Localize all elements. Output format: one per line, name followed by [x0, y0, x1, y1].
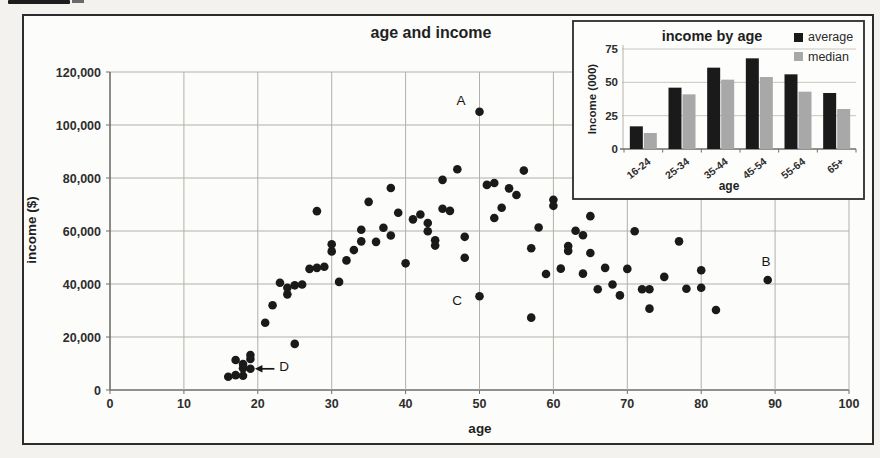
inset-y-tick-label: 50 — [605, 76, 618, 88]
point-label-B: B — [761, 254, 770, 269]
scatter-point — [423, 219, 432, 228]
scatter-point — [497, 203, 506, 212]
scatter-point — [593, 285, 602, 294]
scatter-point — [697, 283, 706, 292]
main-x-tick-label: 80 — [694, 397, 708, 411]
bar-median — [683, 94, 696, 149]
bar-average — [707, 68, 720, 149]
bar-average — [630, 126, 643, 149]
scatter-point — [401, 259, 410, 268]
scatter-point — [460, 253, 469, 262]
main-y-tick-label: 80,000 — [63, 172, 101, 186]
scatter-point — [372, 238, 381, 247]
legend-label-average: average — [808, 31, 853, 44]
bar-median — [721, 80, 734, 149]
scatter-point — [387, 184, 396, 193]
scanned-figure-page: 0102030405060708090100020,00040,00060,00… — [0, 0, 880, 458]
legend-label-median: median — [808, 51, 849, 64]
bar-median — [760, 77, 773, 149]
scatter-point — [313, 264, 322, 273]
point-label-A: A — [456, 93, 465, 108]
main-x-tick-label: 50 — [473, 397, 487, 411]
scatter-point — [660, 273, 669, 282]
bar-median — [644, 133, 657, 149]
scatter-point — [423, 227, 432, 236]
scatter-point — [320, 262, 329, 271]
main-y-tick-label: 20,000 — [63, 331, 101, 345]
scatter-point — [446, 207, 455, 216]
main-x-tick-label: 70 — [620, 397, 634, 411]
scatter-point — [623, 265, 632, 274]
scatter-point — [527, 313, 536, 322]
bar-average — [669, 88, 682, 149]
main-x-tick-label: 60 — [546, 397, 560, 411]
scatter-point — [239, 360, 248, 369]
main-x-tick-label: 100 — [839, 397, 860, 411]
scatter-point — [697, 266, 706, 275]
main-x-tick-label: 0 — [107, 397, 114, 411]
scatter-point — [313, 207, 322, 216]
scatter-point — [231, 356, 240, 365]
main-y-tick-label: 0 — [94, 384, 101, 398]
bar-average — [746, 58, 759, 149]
scatter-point — [438, 204, 447, 213]
main-y-axis-title: income ($) — [24, 196, 39, 264]
scatter-point — [379, 224, 388, 233]
scatter-point — [475, 107, 484, 116]
scatter-point — [246, 355, 255, 364]
inset-legend: average median — [794, 31, 853, 63]
scatter-point — [364, 198, 373, 207]
main-x-tick-label: 20 — [251, 397, 265, 411]
scatter-point — [527, 244, 536, 253]
scatter-point — [246, 365, 255, 374]
scatter-point — [675, 237, 684, 246]
main-y-tick-label: 40,000 — [63, 278, 101, 292]
scatter-point — [534, 223, 543, 232]
main-x-axis-title: age — [468, 421, 491, 436]
scatter-point — [571, 226, 580, 235]
legend-swatch-median — [794, 52, 803, 61]
scatter-point — [601, 264, 610, 273]
main-x-tick-label: 90 — [768, 397, 782, 411]
scatter-point — [357, 237, 366, 246]
inset-y-tick-label: 25 — [605, 110, 618, 122]
scatter-point — [357, 225, 366, 234]
point-label-C: C — [452, 293, 462, 308]
main-chart-title: age and income — [371, 24, 492, 42]
scatter-point — [542, 270, 551, 279]
scatter-point — [556, 264, 565, 273]
bar-median — [799, 92, 812, 149]
scatter-point — [475, 292, 484, 301]
scatter-point — [409, 215, 418, 224]
scatter-point — [564, 247, 573, 256]
scatter-point — [608, 280, 617, 289]
inset-y-tick-label: 0 — [612, 143, 618, 155]
scatter-point — [505, 184, 514, 193]
scatter-point — [520, 166, 529, 175]
legend-swatch-average — [794, 33, 803, 42]
main-y-tick-label: 120,000 — [56, 66, 101, 80]
main-y-tick-label: 60,000 — [63, 225, 101, 239]
scatter-point — [224, 372, 233, 381]
combined-chart: 0102030405060708090100020,00040,00060,00… — [0, 0, 880, 458]
scatter-point — [394, 208, 403, 217]
scatter-point — [638, 285, 647, 294]
scatter-point — [276, 278, 285, 287]
scatter-point — [586, 249, 595, 258]
scatter-point — [579, 269, 588, 278]
bar-average — [823, 93, 836, 149]
main-y-tick-label: 100,000 — [56, 119, 101, 133]
scatter-point — [763, 276, 772, 285]
legend-entry-median: median — [794, 51, 853, 64]
scatter-point — [239, 371, 248, 380]
scatter-point — [483, 181, 492, 190]
scatter-point — [549, 202, 558, 211]
main-x-tick-label: 30 — [325, 397, 339, 411]
scatter-point — [645, 304, 654, 313]
inset-y-tick-label: 75 — [605, 43, 618, 55]
inset-chart-title: income by age — [662, 28, 763, 44]
inset-x-axis-title: age — [719, 179, 740, 193]
scatter-point — [283, 283, 292, 292]
scatter-point — [616, 291, 625, 300]
scatter-point — [231, 371, 240, 380]
